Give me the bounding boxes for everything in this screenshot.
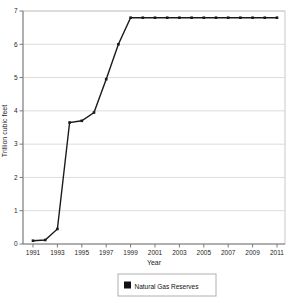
y-tick-label: 0: [14, 240, 18, 247]
x-tick-label: 2007: [221, 249, 236, 256]
x-tick-label: 1991: [26, 249, 41, 256]
x-axis-ticks: 1991199319951997199920012003200520072009…: [26, 244, 285, 256]
data-point-marker: [56, 228, 59, 231]
x-tick-label: 1993: [50, 249, 65, 256]
data-point-marker: [190, 16, 193, 19]
series-polyline: [33, 18, 277, 241]
line-chart: 01234567 1991199319951997199920012003200…: [0, 0, 298, 303]
y-tick-label: 5: [14, 74, 18, 81]
x-tick-label: 1997: [99, 249, 114, 256]
y-tick-label: 7: [14, 7, 18, 14]
data-point-marker: [276, 16, 279, 19]
data-point-marker: [239, 16, 242, 19]
y-tick-label: 3: [14, 140, 18, 147]
data-point-marker: [129, 16, 132, 19]
data-point-marker: [32, 239, 35, 242]
plot-area: [23, 11, 285, 244]
x-tick-label: 2005: [197, 249, 212, 256]
x-axis-title: Year: [147, 259, 162, 266]
x-tick-label: 1999: [123, 249, 138, 256]
chart-figure: 01234567 1991199319951997199920012003200…: [0, 0, 298, 303]
y-axis-title: Trillion cubic feet: [1, 105, 8, 157]
data-point-marker: [215, 16, 218, 19]
x-tick-label: 1995: [75, 249, 90, 256]
data-point-marker: [142, 16, 145, 19]
data-point-marker: [44, 239, 47, 242]
data-point-marker: [81, 120, 84, 123]
legend-swatch-square: [124, 282, 131, 289]
data-point-marker: [166, 16, 169, 19]
data-point-marker: [178, 16, 181, 19]
x-tick-label: 2003: [172, 249, 187, 256]
legend: Natural Gas Reserves: [118, 274, 216, 296]
data-point-marker: [105, 78, 108, 81]
y-tick-label: 2: [14, 174, 18, 181]
legend-label: Natural Gas Reserves: [135, 283, 200, 290]
data-point-marker: [68, 121, 71, 124]
data-point-marker: [203, 16, 206, 19]
x-tick-label: 2009: [245, 249, 260, 256]
x-tick-label: 2001: [148, 249, 163, 256]
y-tick-label: 4: [14, 107, 18, 114]
data-series: [32, 16, 279, 242]
data-point-marker: [93, 111, 96, 114]
data-point-marker: [227, 16, 230, 19]
x-tick-label: 2011: [270, 249, 284, 256]
data-point-marker: [251, 16, 254, 19]
y-tick-label: 6: [14, 41, 18, 48]
y-axis-ticks: 01234567: [14, 7, 23, 247]
data-point-marker: [264, 16, 267, 19]
y-tick-label: 1: [14, 207, 18, 214]
data-point-marker: [154, 16, 157, 19]
data-point-marker: [117, 43, 120, 46]
